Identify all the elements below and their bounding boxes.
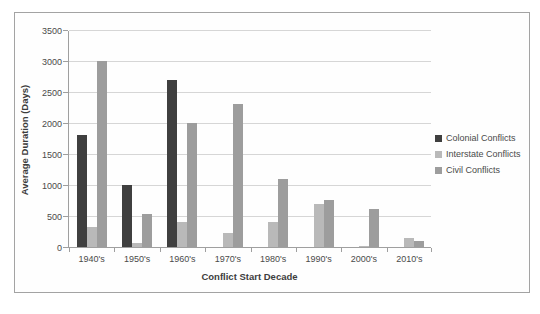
x-axis-title: Conflict Start Decade xyxy=(68,271,431,282)
x-axis-tick xyxy=(431,248,432,252)
x-tick-label-1970s: 1970's xyxy=(205,254,251,265)
y-axis-tick xyxy=(63,92,68,93)
gridline-3000 xyxy=(69,61,431,62)
gridline-2000 xyxy=(69,123,431,124)
screenshot-root: Average Duration (Days) 0500100015002000… xyxy=(0,0,540,314)
y-tick-label-3500: 3500 xyxy=(28,26,62,36)
bar-civil-1960s xyxy=(187,123,197,247)
x-axis-tick xyxy=(160,248,161,252)
x-axis-tick xyxy=(69,248,70,252)
bar-colonial-1950s xyxy=(122,185,132,247)
x-tick-label-2010s: 2010's xyxy=(386,254,432,265)
bar-interstate-2010s xyxy=(404,238,414,247)
x-tick-label-2000s: 2000's xyxy=(341,254,387,265)
y-tick-label-1500: 1500 xyxy=(28,150,62,160)
bar-civil-1990s xyxy=(324,200,334,247)
bar-interstate-1980s xyxy=(268,222,278,247)
bar-interstate-2000s xyxy=(359,246,369,247)
bar-civil-1980s xyxy=(278,179,288,247)
y-axis-tick xyxy=(63,61,68,62)
y-axis-tick xyxy=(63,123,68,124)
bar-civil-2010s xyxy=(414,241,424,247)
bar-interstate-1990s xyxy=(314,204,324,247)
legend-swatch-icon xyxy=(435,135,442,142)
y-tick-label-3000: 3000 xyxy=(28,57,62,67)
legend: Colonial ConflictsInterstate ConflictsCi… xyxy=(435,130,529,178)
bar-colonial-1960s xyxy=(167,80,177,247)
bar-interstate-1960s xyxy=(177,222,187,247)
gridline-1500 xyxy=(69,154,431,155)
y-tick-label-2500: 2500 xyxy=(28,88,62,98)
y-tick-label-0: 0 xyxy=(28,243,62,253)
legend-swatch-icon xyxy=(435,151,442,158)
y-axis-tick xyxy=(63,247,68,248)
legend-item-civil: Civil Conflicts xyxy=(435,162,529,178)
x-tick-label-1960s: 1960's xyxy=(159,254,205,265)
bar-civil-1950s xyxy=(142,214,152,247)
y-tick-label-2000: 2000 xyxy=(28,119,62,129)
y-axis-tick xyxy=(63,30,68,31)
y-axis-tick xyxy=(63,185,68,186)
gridline-3500 xyxy=(69,30,431,31)
x-axis-tick xyxy=(296,248,297,252)
bar-interstate-1970s xyxy=(223,233,233,247)
x-tick-label-1950s: 1950's xyxy=(114,254,160,265)
legend-label: Civil Conflicts xyxy=(446,165,500,175)
bar-colonial-1940s xyxy=(77,135,87,247)
x-axis-tick xyxy=(387,248,388,252)
legend-item-interstate: Interstate Conflicts xyxy=(435,146,529,162)
y-axis-tick xyxy=(63,154,68,155)
legend-item-colonial: Colonial Conflicts xyxy=(435,130,529,146)
plot-area: 05001000150020002500300035001940's1950's… xyxy=(68,31,431,248)
y-tick-label-1000: 1000 xyxy=(28,181,62,191)
gridline-2500 xyxy=(69,92,431,93)
x-tick-label-1940s: 1940's xyxy=(69,254,115,265)
bar-interstate-1950s xyxy=(132,243,142,247)
y-axis-tick xyxy=(63,216,68,217)
legend-label: Colonial Conflicts xyxy=(446,133,516,143)
bar-civil-1970s xyxy=(233,104,243,247)
x-tick-label-1980s: 1980's xyxy=(250,254,296,265)
bar-interstate-1940s xyxy=(87,227,97,247)
bar-civil-1940s xyxy=(97,61,107,247)
legend-label: Interstate Conflicts xyxy=(446,149,521,159)
chart-frame: Average Duration (Days) 0500100015002000… xyxy=(14,12,530,293)
bar-civil-2000s xyxy=(369,209,379,247)
x-axis-tick xyxy=(251,248,252,252)
x-axis-tick xyxy=(114,248,115,252)
y-tick-label-500: 500 xyxy=(28,212,62,222)
x-axis-tick xyxy=(205,248,206,252)
legend-swatch-icon xyxy=(435,167,442,174)
x-tick-label-1990s: 1990's xyxy=(296,254,342,265)
x-axis-tick xyxy=(341,248,342,252)
